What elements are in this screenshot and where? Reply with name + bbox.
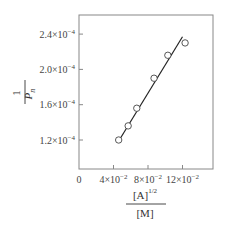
data-point — [165, 52, 171, 58]
x-axis-ticks: 04×10−28×10−212×10−2 — [77, 165, 200, 185]
data-point — [115, 137, 121, 143]
y-tick-label: 1.6×10−4 — [39, 98, 75, 110]
chart: 04×10−28×10−212×10−2 1.2×10−41.6×10−42.0… — [0, 0, 226, 228]
x-tick-label: 4×10−2 — [99, 173, 128, 185]
data-point — [182, 40, 188, 46]
y-tick-label: 2.4×10−4 — [39, 28, 75, 40]
y-label-numerator: 1 — [10, 90, 22, 96]
x-label-denominator: [M] — [136, 207, 153, 219]
x-label-numerator: [A]1/2 — [133, 187, 158, 201]
x-tick-label: 0 — [77, 174, 82, 185]
y-label-denominator: Pn — [22, 89, 37, 101]
data-points — [115, 40, 188, 143]
data-point — [125, 123, 131, 129]
data-point — [151, 75, 157, 81]
x-tick-label: 12×10−2 — [166, 173, 200, 185]
plot-frame — [79, 15, 213, 169]
y-axis-ticks: 1.2×10−41.6×10−42.0×10−42.4×10−4 — [39, 28, 83, 146]
y-axis-label: 1 Pn — [10, 80, 37, 104]
y-tick-label: 1.2×10−4 — [39, 134, 75, 146]
data-point — [134, 105, 140, 111]
y-tick-label: 2.0×10−4 — [39, 63, 75, 75]
x-tick-label: 8×10−2 — [134, 173, 163, 185]
x-axis-label: [A]1/2 [M] — [126, 187, 166, 219]
